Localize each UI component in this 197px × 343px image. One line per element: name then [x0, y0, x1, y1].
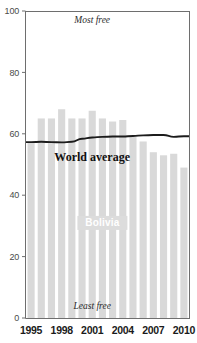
economic-freedom-chart: 020406080100 199519982001200420072010 Mo…	[0, 0, 197, 343]
annotation-bolivia: Bolivia	[85, 217, 119, 228]
y-axis-ticks: 020406080100	[5, 6, 26, 323]
annotation-most-free: Most free	[73, 15, 110, 25]
x-tick-label-2010: 2010	[173, 324, 196, 336]
bar-2005	[129, 137, 136, 318]
x-tick-label-2004: 2004	[112, 324, 135, 336]
bar-1996	[38, 118, 45, 318]
x-tick-label-2001: 2001	[81, 324, 104, 336]
bar-2008	[160, 155, 167, 318]
bar-series-bolivia	[28, 109, 188, 318]
y-tick-label-20: 20	[9, 252, 19, 262]
y-tick-label-0: 0	[14, 313, 19, 323]
annotation-world-average: World average	[54, 150, 130, 164]
x-tick-label-2007: 2007	[142, 324, 165, 336]
x-tick-label-1995: 1995	[20, 324, 43, 336]
y-tick-label-60: 60	[9, 129, 19, 139]
y-tick-label-80: 80	[9, 68, 19, 78]
bar-2007	[150, 152, 157, 318]
chart-canvas: 020406080100 199519982001200420072010 Mo…	[0, 0, 197, 343]
bar-1997	[48, 118, 55, 318]
bar-2006	[140, 141, 147, 318]
x-axis-ticks: 199519982001200420072010	[20, 324, 195, 336]
bar-2001	[89, 111, 96, 318]
x-tick-label-1998: 1998	[51, 324, 74, 336]
y-tick-label-100: 100	[5, 6, 20, 16]
bar-1995	[28, 143, 35, 318]
bar-1999	[68, 118, 75, 318]
annotation-least-free: Least free	[73, 301, 111, 311]
bar-1998	[58, 109, 65, 318]
y-tick-label-40: 40	[9, 190, 19, 200]
bar-2010	[180, 168, 187, 318]
bar-2009	[170, 154, 177, 318]
